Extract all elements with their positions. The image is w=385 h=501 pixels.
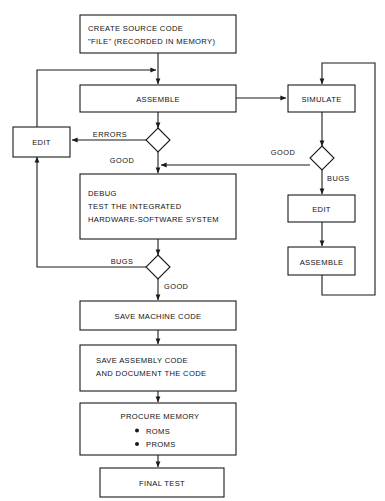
node-final-test[interactable]: FINAL TEST [100,468,224,497]
node-procure-memory[interactable]: PROCURE MEMORY ROMS PROMS [80,403,236,455]
debug-line-1: DEBUG [88,189,117,198]
node-decision-assemble[interactable] [146,128,170,152]
edit-left-label: EDIT [32,138,51,147]
edit-right-label: EDIT [312,205,331,214]
save-assembly-line-2: AND DOCUMENT THE CODE [96,369,206,378]
debug-line-3: HARDWARE-SOFTWARE SYSTEM [88,215,219,224]
label-bugs-debug: BUGS [111,257,134,266]
node-create-source-code[interactable]: CREATE SOURCE CODE "FILE" (RECORDED IN M… [80,15,236,53]
node-debug[interactable]: DEBUG TEST THE INTEGRATED HARDWARE-SOFTW… [80,174,236,239]
node-simulate[interactable]: SIMULATE [288,85,355,112]
node-edit-left[interactable]: EDIT [13,127,70,157]
final-test-label: FINAL TEST [139,479,185,488]
node-save-assembly-code[interactable]: SAVE ASSEMBLY CODE AND DOCUMENT THE CODE [80,345,236,391]
procure-memory-bullet-2: PROMS [146,440,176,449]
debug-line-2: TEST THE INTEGRATED [88,202,182,211]
bullet-icon [135,442,139,446]
node-edit-right[interactable]: EDIT [288,195,355,222]
node-decision-debug[interactable] [146,255,170,279]
simulate-label: SIMULATE [301,95,341,104]
procure-memory-bullet-1: ROMS [146,427,170,436]
save-machine-code-label: SAVE MACHINE CODE [115,312,202,321]
node-assemble-main[interactable]: ASSEMBLE [80,85,236,112]
label-bugs-simulate: BUGS [327,174,350,183]
node-decision-simulate[interactable] [310,146,334,170]
save-assembly-line-1: SAVE ASSEMBLY CODE [96,356,188,365]
procure-memory-label: PROCURE MEMORY [120,412,199,421]
assemble-right-label: ASSEMBLE [300,258,344,267]
assemble-main-label: ASSEMBLE [136,95,180,104]
bullet-icon [135,429,139,433]
create-source-line-1: CREATE SOURCE CODE [88,24,183,33]
node-save-machine-code[interactable]: SAVE MACHINE CODE [80,301,236,330]
label-good-simulate: GOOD [271,148,295,157]
flowchart-diagram: CREATE SOURCE CODE "FILE" (RECORDED IN M… [0,0,385,501]
label-good-debug: GOOD [164,282,188,291]
node-assemble-right[interactable]: ASSEMBLE [288,247,355,275]
create-source-line-2: "FILE" (RECORDED IN MEMORY) [88,37,215,46]
label-errors: ERRORS [93,130,127,139]
label-good-assemble: GOOD [110,156,134,165]
